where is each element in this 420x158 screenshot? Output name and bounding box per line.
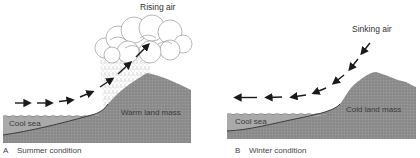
summer-diagram (0, 0, 210, 158)
panel-winter-condition: Sinking air Cool sea Cold land mass BWin… (210, 0, 420, 158)
panel-letter-b: B (235, 147, 249, 155)
cool-sea-label: Cool sea (9, 120, 41, 128)
warm-land-mass-label: Warm land mass (121, 109, 181, 117)
caption-summer-text: Summer condition (17, 146, 81, 155)
panel-letter-a: A (3, 147, 17, 155)
caption-summer: ASummer condition (3, 147, 81, 155)
caption-winter: BWinter condition (235, 147, 306, 155)
rising-air-label: Rising air (140, 3, 175, 12)
panel-summer-condition: Rising air Cool sea Warm land mass ASumm… (0, 0, 210, 158)
caption-winter-text: Winter condition (249, 146, 306, 155)
sinking-air-arrows (236, 43, 370, 98)
cool-sea-label: Cool sea (235, 118, 267, 126)
sinking-air-label: Sinking air (352, 25, 392, 34)
cloud-icon (95, 15, 192, 63)
cold-land-mass-label: Cold land mass (346, 106, 401, 114)
